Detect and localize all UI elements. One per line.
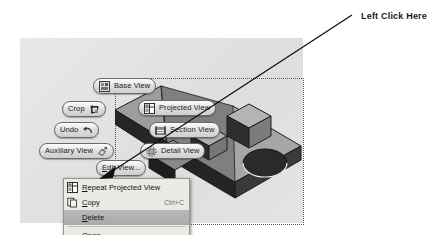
context-menu-separator bbox=[68, 226, 185, 227]
context-menu-item-repeat-projected-view[interactable]: Repeat Projected View bbox=[64, 180, 189, 195]
detail-view-icon bbox=[146, 146, 157, 157]
marking-menu-section-view-label: Section View bbox=[170, 126, 214, 134]
context-menu-accel-copy: Ctrl+C bbox=[164, 199, 184, 206]
marking-menu-detail-view-label: Detail View bbox=[161, 147, 199, 155]
marking-menu-projected-view-label: Projected View bbox=[159, 104, 210, 112]
marking-menu-undo-label: Undo bbox=[60, 126, 78, 134]
context-menu-item-open[interactable]: Open bbox=[64, 228, 189, 235]
marking-menu-crop-label: Crop bbox=[68, 105, 85, 113]
section-view-icon bbox=[155, 125, 166, 136]
copy-icon bbox=[67, 197, 78, 208]
marking-menu-crop[interactable]: Crop bbox=[62, 101, 106, 117]
marking-menu-base-view[interactable]: Base View bbox=[93, 78, 156, 94]
context-menu-item-delete[interactable]: Delete bbox=[64, 210, 189, 225]
marking-menu-edit-view[interactable]: Edit View... bbox=[96, 160, 146, 176]
marking-menu-edit-view-label: Edit View... bbox=[102, 164, 140, 172]
screenshot-stage: Base View Projected View Section View bbox=[0, 0, 445, 235]
undo-icon bbox=[82, 125, 93, 136]
marking-menu-detail-view[interactable]: Detail View bbox=[140, 143, 205, 159]
drawing-canvas[interactable]: Base View Projected View Section View bbox=[20, 38, 303, 223]
context-menu-item-copy[interactable]: Copy Ctrl+C bbox=[64, 195, 189, 210]
repeat-projected-view-icon bbox=[67, 182, 78, 193]
context-menu-label-repeat-projected-view: Repeat Projected View bbox=[82, 183, 160, 192]
context-menu-label-open: Open bbox=[82, 231, 101, 235]
callout-label: Left Click Here bbox=[361, 11, 427, 21]
drawing-view-context-menu[interactable]: Repeat Projected View Copy Ctrl+C Delete… bbox=[63, 178, 190, 235]
marking-menu-auxiliary-view-label: Auxiliary View bbox=[45, 147, 93, 155]
crop-icon bbox=[89, 104, 100, 115]
marking-menu-base-view-label: Base View bbox=[114, 82, 150, 90]
auxiliary-view-icon bbox=[97, 146, 108, 157]
marking-menu-undo[interactable]: Undo bbox=[54, 122, 99, 138]
context-menu-label-copy: Copy bbox=[82, 198, 100, 207]
base-view-icon bbox=[99, 81, 110, 92]
context-menu-label-delete: Delete bbox=[82, 213, 104, 222]
marking-menu-auxiliary-view[interactable]: Auxiliary View bbox=[39, 143, 114, 159]
marking-menu-section-view[interactable]: Section View bbox=[149, 122, 220, 138]
marking-menu-projected-view[interactable]: Projected View bbox=[138, 100, 216, 116]
projected-view-icon bbox=[144, 103, 155, 114]
